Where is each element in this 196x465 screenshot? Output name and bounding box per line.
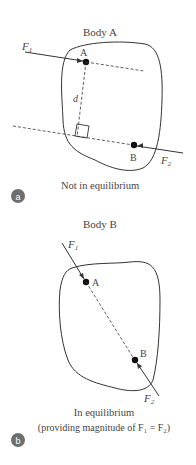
force1-label: F1 (21, 40, 32, 54)
force2-label: F2 (160, 154, 172, 168)
svg-text:a: a (15, 192, 20, 202)
caption-a: Not in equilibrium (61, 180, 139, 191)
svg-text:b: b (15, 436, 20, 446)
arrowhead-icon (137, 363, 142, 369)
body-a-outline (62, 42, 163, 170)
body-b-outline (59, 262, 160, 391)
panel-b: Body B F1 A B F2 In equilibrium (providi… (11, 218, 170, 447)
line-of-action-b (13, 126, 133, 145)
caption-b-condition: (providing magnitude of F₁ = F₂) (38, 422, 170, 434)
right-angle-icon (75, 124, 89, 138)
point-b-label: B (140, 348, 147, 359)
distance-label: d (73, 93, 79, 104)
point-a-label: A (80, 47, 88, 58)
line-of-action-a (86, 62, 144, 71)
line-of-action (86, 282, 134, 359)
body-a-title: Body A (83, 26, 117, 38)
force2-line (137, 146, 183, 153)
arrowhead-icon (137, 143, 143, 148)
force2-label: F2 (143, 392, 155, 406)
force1-line (25, 52, 83, 61)
arrowhead-icon (79, 273, 84, 279)
point-b-label: B (130, 152, 137, 163)
point-b (131, 142, 137, 148)
figure: Body A F1 A d B F2 Not in equilibrium a … (0, 0, 196, 465)
body-b-title: Body B (83, 218, 117, 230)
caption-b: In equilibrium (74, 407, 134, 418)
distance-line (77, 62, 86, 137)
point-a-label: A (92, 277, 100, 288)
panel-a: Body A F1 A d B F2 Not in equilibrium a (11, 26, 183, 203)
point-b (132, 357, 138, 363)
force1-label: F1 (67, 238, 78, 252)
